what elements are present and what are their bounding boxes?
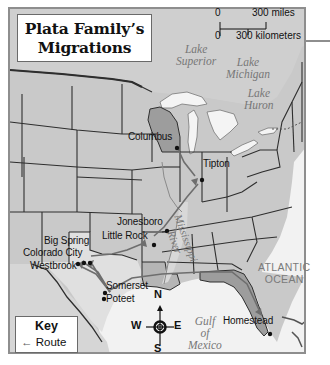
key-title: Key bbox=[16, 319, 77, 333]
map-key: Key ← Route bbox=[15, 316, 78, 353]
frame-connector-line bbox=[306, 40, 330, 42]
gulf-of-mexico-label: Gulf of Mexico bbox=[188, 315, 222, 351]
route-arrow-icon: ← bbox=[21, 336, 33, 348]
city-label-little-rock: Little Rock bbox=[102, 230, 148, 241]
city-label-jonesboro: Jonesboro bbox=[117, 216, 163, 227]
city-label-homestead: Homestead bbox=[223, 315, 273, 326]
scale-km-label: 300 kilometers bbox=[236, 30, 301, 41]
city-label-westbrook: Westbrook bbox=[30, 260, 77, 271]
city-label-colorado-city: Colorado City bbox=[23, 247, 82, 258]
lake-erie-shape bbox=[230, 140, 258, 156]
compass-west: W bbox=[131, 319, 141, 331]
lake-michigan-label: Lake Michigan bbox=[226, 56, 270, 80]
key-route-item: ← Route bbox=[21, 336, 66, 348]
key-route-label: Route bbox=[36, 336, 67, 348]
city-label-poteet: Poteet bbox=[106, 293, 134, 304]
map-title-box: Plata Family’s Migrations bbox=[17, 14, 152, 62]
compass-east: E bbox=[174, 319, 181, 331]
city-label-big-spring: Big Spring bbox=[44, 235, 89, 246]
city-label-tipton: Tipton bbox=[203, 158, 230, 169]
wisconsin-state bbox=[148, 107, 180, 152]
city-label-somerset: Somerset bbox=[106, 280, 148, 291]
compass-south: S bbox=[154, 342, 161, 354]
lake-huron-label: Lake Huron bbox=[244, 87, 274, 111]
lake-ontario-shape bbox=[258, 128, 278, 135]
city-label-columbus: Columbus bbox=[128, 131, 172, 142]
map-title-line1: Plata Family’s bbox=[18, 19, 151, 38]
lake-superior-label: Lake Superior bbox=[176, 43, 216, 67]
lake-michigan-shape bbox=[188, 110, 198, 154]
scale-miles-label: 300 miles bbox=[252, 7, 295, 18]
lake-huron-shape bbox=[207, 110, 238, 140]
map-title-line2: Migrations bbox=[18, 38, 151, 57]
scale-zero-miles: 0 bbox=[215, 7, 221, 18]
compass-north: N bbox=[154, 288, 162, 300]
atlantic-ocean-label: ATLANTIC OCEAN bbox=[258, 261, 310, 285]
scale-zero-km: 0 bbox=[215, 30, 221, 41]
